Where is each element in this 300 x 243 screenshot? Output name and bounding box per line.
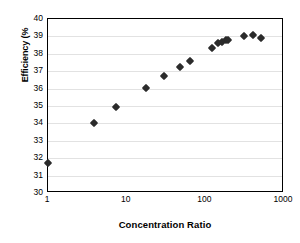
data-point bbox=[112, 103, 120, 111]
y-axis-tick-label: 37 bbox=[34, 66, 43, 75]
y-axis-tick-label: 39 bbox=[34, 31, 43, 40]
gridline bbox=[48, 123, 282, 124]
y-axis-tick-label: 32 bbox=[34, 153, 43, 162]
x-axis-title: Concentration Ratio bbox=[47, 219, 283, 230]
gridline bbox=[48, 106, 282, 107]
data-point bbox=[248, 30, 256, 38]
x-axis-tick-labels: 1101001000 bbox=[0, 195, 300, 207]
x-axis-tick-label: 1000 bbox=[274, 195, 293, 204]
gridline bbox=[48, 158, 282, 159]
data-point bbox=[160, 71, 168, 79]
data-point bbox=[90, 119, 98, 127]
scatter-chart: 3031323334353637383940 1101001000 Effici… bbox=[0, 0, 300, 243]
y-axis-tick-label: 35 bbox=[34, 101, 43, 110]
y-axis-tick-label: 36 bbox=[34, 83, 43, 92]
gridline bbox=[48, 54, 282, 55]
gridline bbox=[48, 89, 282, 90]
y-axis-tick-label: 34 bbox=[34, 118, 43, 127]
data-point bbox=[176, 63, 184, 71]
x-axis-tick-label: 10 bbox=[121, 195, 130, 204]
data-point bbox=[44, 159, 52, 167]
x-axis-tick-label: 1 bbox=[45, 195, 50, 204]
y-axis-tick-label: 38 bbox=[34, 48, 43, 57]
gridline bbox=[48, 141, 282, 142]
y-axis-title: Efficiency (% bbox=[20, 0, 30, 125]
data-point bbox=[240, 31, 248, 39]
y-axis-tick-label: 33 bbox=[34, 135, 43, 144]
gridline bbox=[48, 176, 282, 177]
x-axis-tick-label: 100 bbox=[197, 195, 211, 204]
plot-area bbox=[47, 18, 283, 192]
y-axis-tick-label: 40 bbox=[34, 14, 43, 23]
y-axis-tick-label: 31 bbox=[34, 170, 43, 179]
data-point bbox=[142, 83, 150, 91]
data-point bbox=[185, 57, 193, 65]
data-point bbox=[257, 34, 265, 42]
